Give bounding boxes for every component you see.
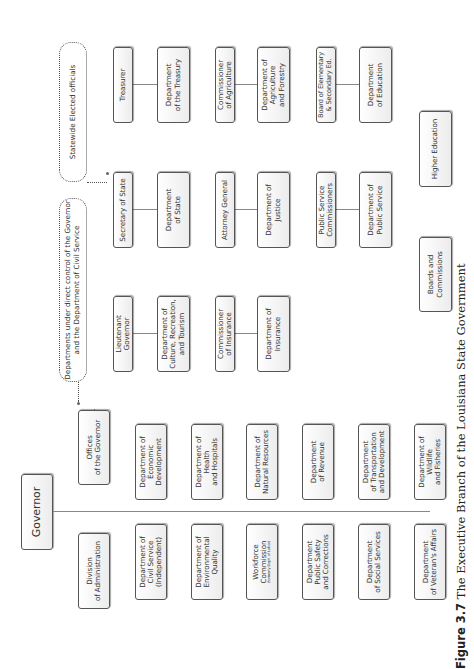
workforce-commission-label: Workforce Commission — [252, 541, 269, 584]
dept-justice: Department of Justice — [257, 172, 290, 248]
statewide-dot — [106, 172, 109, 175]
dept-health-hospitals: Department of Health and Hospitals — [191, 424, 223, 500]
dept-insurance: Department of Insurance — [257, 296, 290, 372]
boards-and-commissions-box: Boards and Commissions — [419, 237, 452, 312]
direct-control-legend: Departments under direct control of the … — [59, 198, 87, 382]
connector — [235, 333, 257, 334]
dept-revenue: Department of Revenue — [302, 424, 334, 500]
connector — [133, 209, 157, 210]
governor-box: Governor — [21, 474, 53, 550]
dept-agriculture-forestry: Department of Agriculture and Forestry — [257, 47, 290, 123]
connector — [133, 84, 157, 85]
lieutenant-governor-box: Lieutenant Governor — [113, 296, 133, 372]
figure-caption: Figure 3.7 The Executive Branch of the L… — [454, 263, 468, 669]
bese-box: Board of Elementary & Secondary Ed. — [316, 47, 336, 123]
statewide-leader — [87, 182, 107, 183]
governor-spine — [53, 511, 430, 512]
workforce-commission: Workforce Commission (formerly Dept. of … — [246, 524, 278, 600]
dept-transportation-development: Department of Transportation and Develop… — [358, 424, 390, 500]
division-of-administration-box: Division of Administration — [78, 533, 110, 609]
public-service-commissioners-box: Public Service Commissioners — [316, 172, 336, 248]
connector — [235, 84, 257, 85]
direct-control-leader — [78, 382, 79, 402]
connector — [336, 84, 359, 85]
offices-of-governor-box: Offices of the Governor — [78, 410, 110, 485]
org-chart: Governor Offices of the Governor Divisio… — [0, 0, 474, 669]
workforce-note: (formerly Dept. of Labor) — [268, 541, 272, 583]
treasurer-box: Treasurer — [113, 47, 133, 123]
figure-label: Figure 3.7 — [454, 603, 468, 669]
connector — [336, 209, 359, 210]
dept-treasury: Department of the Treasury — [157, 47, 190, 123]
dept-natural-resources: Department of Natural Resources — [246, 424, 278, 500]
dept-civil-service: Department of Civil Service (Independent… — [135, 524, 167, 600]
dept-wildlife-fisheries: Department of Wildlife and Fisheries — [414, 424, 446, 500]
dept-environmental-quality: Department of Environmental Quality — [191, 524, 223, 600]
dept-culture-recreation-tourism: Department of Culture, Recreation, and T… — [157, 296, 190, 372]
figure-title: The Executive Branch of the Louisiana St… — [454, 263, 468, 599]
direct-control-dot — [77, 402, 80, 405]
higher-education-box: Higher Education — [419, 111, 452, 187]
dept-public-service: Department of Public Service — [359, 172, 392, 248]
connector — [133, 333, 157, 334]
attorney-general-box: Attorney General — [215, 172, 235, 248]
dept-veterans-affairs: Department of Veteran's Affairs — [414, 524, 446, 600]
statewide-legend: Statewide Elected officials — [59, 42, 87, 182]
commissioner-of-insurance-box: Commissioner of Insurance — [215, 296, 235, 372]
dept-education: Department of Education — [359, 47, 392, 123]
dept-economic-development: Department of Economic Development — [135, 424, 167, 500]
dept-public-safety-corrections: Department Public Safety and Corrections — [302, 524, 334, 600]
connector — [235, 209, 257, 210]
commissioner-of-agriculture-box: Commissioner of Agriculture — [215, 47, 235, 123]
dept-social-services: Department of Social Services — [358, 524, 390, 600]
secretary-of-state-box: Secretary of State — [113, 172, 133, 248]
dept-state: Department of State — [157, 172, 190, 248]
